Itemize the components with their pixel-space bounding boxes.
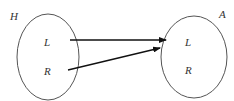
set-a-label: A <box>218 8 226 20</box>
set-a-element-r: R <box>184 64 192 76</box>
set-a-element-l: L <box>184 36 191 48</box>
set-a: A L R <box>161 8 227 98</box>
mapping-diagram: H L R A L R <box>0 0 234 101</box>
arrow-hr-to-al <box>68 48 160 70</box>
set-h: H L R <box>9 10 79 100</box>
set-h-element-l: L <box>43 36 50 48</box>
set-a-ellipse <box>161 16 227 98</box>
set-h-label: H <box>9 10 19 22</box>
set-h-ellipse <box>17 14 79 100</box>
set-h-element-r: R <box>43 65 51 77</box>
